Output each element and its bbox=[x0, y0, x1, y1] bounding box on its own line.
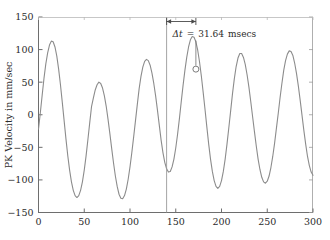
y-tick-label: 0 bbox=[27, 109, 33, 120]
delta-t-equals: = bbox=[187, 29, 195, 39]
x-tick-label: 150 bbox=[167, 216, 185, 227]
x-tick-label: 300 bbox=[304, 216, 322, 227]
series-group bbox=[39, 37, 314, 199]
delta-t-symbol: Δt bbox=[172, 29, 183, 39]
peak-marker bbox=[193, 66, 199, 72]
velocity-waveform bbox=[39, 37, 314, 199]
y-tick-label: −150 bbox=[7, 207, 33, 218]
bracket-arrow-left-icon bbox=[167, 19, 172, 23]
y-tick-label: 100 bbox=[15, 44, 33, 55]
y-tick-label: −50 bbox=[13, 142, 33, 153]
velocity-chart-figure: −150−100−50050100150 050100150200250300 … bbox=[0, 0, 330, 240]
x-tick-label: 100 bbox=[121, 216, 139, 227]
y-tick-label: 150 bbox=[15, 11, 33, 22]
x-tick-label: 50 bbox=[78, 216, 90, 227]
x-axis-tick-labels: 050100150200250300 bbox=[35, 216, 322, 227]
y-tick-label: 50 bbox=[21, 77, 33, 88]
axes-spines bbox=[38, 17, 313, 213]
delta-t-units: msecs bbox=[228, 29, 257, 39]
x-tick-label: 200 bbox=[212, 216, 230, 227]
x-axis-ticks bbox=[39, 17, 314, 213]
chart-canvas: −150−100−50050100150 050100150200250300 … bbox=[0, 0, 330, 240]
y-axis-title: PK Velocity in mm/sec bbox=[3, 62, 14, 169]
y-tick-label: −100 bbox=[7, 174, 33, 185]
delta-t-value: 31.64 bbox=[198, 29, 224, 39]
y-axis-ticks bbox=[39, 17, 314, 213]
x-tick-label: 250 bbox=[258, 216, 276, 227]
bracket-arrow-right-icon bbox=[191, 19, 196, 23]
delta-t-bracket bbox=[167, 18, 196, 25]
x-tick-label: 0 bbox=[35, 216, 41, 227]
delta-t-label: Δt=31.64msecs bbox=[172, 29, 257, 39]
